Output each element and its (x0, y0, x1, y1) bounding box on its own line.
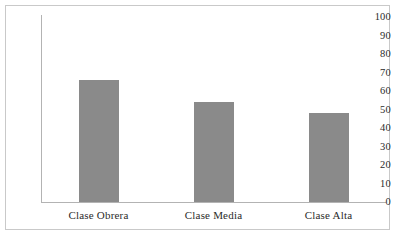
x-axis-category-label: Clase Media (156, 209, 271, 221)
x-axis-line (41, 202, 386, 203)
y-axis-tick-label: 50 (361, 104, 391, 115)
chart-frame: 1009080706050403020100 Clase ObreraClase… (5, 5, 390, 230)
y-axis-line (41, 15, 42, 203)
x-axis-category-label: Clase Obrera (41, 209, 156, 221)
y-axis-tick-label: 80 (361, 49, 391, 60)
y-axis-tick-label: 60 (361, 86, 391, 97)
plot-area: 1009080706050403020100 Clase ObreraClase… (6, 6, 391, 231)
bar (309, 113, 349, 202)
bar (79, 80, 119, 202)
y-axis-tick-label: 40 (361, 123, 391, 134)
y-axis-tick-label: 20 (361, 160, 391, 171)
y-axis-tick-label: 10 (361, 178, 391, 189)
y-axis-tick-label: 100 (361, 12, 391, 23)
y-axis-tick-label: 70 (361, 67, 391, 78)
y-axis-tick-label: 90 (361, 30, 391, 41)
bar (194, 102, 234, 202)
y-axis-tick-label: 0 (361, 197, 391, 208)
x-axis-category-label: Clase Alta (271, 209, 386, 221)
y-axis-tick-label: 30 (361, 141, 391, 152)
